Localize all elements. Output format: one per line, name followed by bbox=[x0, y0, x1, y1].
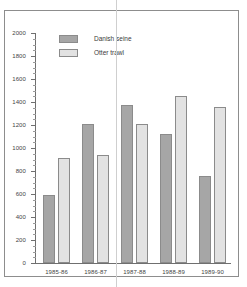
y-tick-label: 1600 bbox=[12, 76, 26, 82]
y-tick-minor bbox=[33, 131, 36, 132]
chart-figure: 0200400600800100012001400160018002000 19… bbox=[0, 0, 247, 287]
bar-danish-seine bbox=[43, 195, 55, 263]
y-tick-minor bbox=[33, 206, 36, 207]
bar-group bbox=[121, 33, 148, 263]
bar-danish-seine bbox=[82, 124, 94, 263]
bar-otter-trawl bbox=[136, 124, 148, 263]
y-tick-minor bbox=[33, 114, 36, 115]
bar-danish-seine bbox=[199, 176, 211, 263]
y-tick-minor bbox=[33, 177, 36, 178]
y-tick-label: 1800 bbox=[12, 53, 26, 59]
bar-group bbox=[199, 33, 226, 263]
y-tick-major: 1600 bbox=[31, 79, 36, 80]
y-tick-minor bbox=[33, 252, 36, 253]
bar-group bbox=[160, 33, 187, 263]
y-tick-major: 1200 bbox=[31, 125, 36, 126]
bar-otter-trawl bbox=[214, 107, 226, 263]
y-tick-minor bbox=[33, 223, 36, 224]
legend-label-danish-seine: Danish seine bbox=[94, 35, 132, 42]
scan-fold-line bbox=[116, 0, 117, 287]
y-tick-label: 600 bbox=[16, 191, 26, 197]
legend-item-danish-seine: Danish seine bbox=[59, 33, 159, 44]
y-tick-major: 800 bbox=[31, 171, 36, 172]
y-tick-major: 600 bbox=[31, 194, 36, 195]
y-tick-minor bbox=[33, 160, 36, 161]
y-tick-minor bbox=[33, 96, 36, 97]
y-tick-label: 800 bbox=[16, 168, 26, 174]
bar-otter-trawl bbox=[58, 158, 70, 263]
legend-swatch-danish-seine bbox=[59, 35, 78, 43]
y-tick-minor bbox=[33, 50, 36, 51]
y-tick-minor bbox=[33, 154, 36, 155]
y-tick-minor bbox=[33, 211, 36, 212]
y-tick-label: 1000 bbox=[12, 145, 26, 151]
chart-legend: Danish seine Otter trawl bbox=[59, 33, 159, 61]
x-tick-label: 1985-86 bbox=[45, 269, 68, 275]
x-tick-label: 1989-90 bbox=[201, 269, 224, 275]
y-tick-label: 1200 bbox=[12, 122, 26, 128]
y-tick-minor bbox=[33, 137, 36, 138]
y-tick-minor bbox=[33, 62, 36, 63]
y-tick-minor bbox=[33, 108, 36, 109]
y-tick-minor bbox=[33, 85, 36, 86]
y-tick-major: 0 bbox=[31, 263, 36, 264]
bar-otter-trawl bbox=[175, 96, 187, 263]
y-tick-minor bbox=[33, 119, 36, 120]
y-tick-label: 200 bbox=[16, 237, 26, 243]
y-tick-major: 2000 bbox=[31, 33, 36, 34]
y-tick-minor bbox=[33, 73, 36, 74]
y-tick-minor bbox=[33, 91, 36, 92]
y-tick-minor bbox=[33, 142, 36, 143]
y-tick-major: 1800 bbox=[31, 56, 36, 57]
bar-otter-trawl bbox=[97, 155, 109, 263]
y-tick-label: 400 bbox=[16, 214, 26, 220]
x-tick-label: 1987-88 bbox=[123, 269, 146, 275]
y-tick-minor bbox=[33, 165, 36, 166]
x-tick-label: 1988-89 bbox=[162, 269, 185, 275]
bar-danish-seine bbox=[121, 105, 133, 263]
y-tick-minor bbox=[33, 246, 36, 247]
y-tick-major: 200 bbox=[31, 240, 36, 241]
y-tick-minor bbox=[33, 39, 36, 40]
y-tick-major: 400 bbox=[31, 217, 36, 218]
x-tick-label: 1986-87 bbox=[84, 269, 107, 275]
y-tick-major: 1400 bbox=[31, 102, 36, 103]
y-tick-major: 1000 bbox=[31, 148, 36, 149]
y-tick-minor bbox=[33, 183, 36, 184]
y-tick-minor bbox=[33, 45, 36, 46]
figure-frame: 0200400600800100012001400160018002000 19… bbox=[4, 10, 239, 277]
plot-area: 0200400600800100012001400160018002000 19… bbox=[35, 33, 230, 263]
y-tick-minor bbox=[33, 68, 36, 69]
legend-item-otter-trawl: Otter trawl bbox=[59, 47, 159, 58]
bar-danish-seine bbox=[160, 134, 172, 263]
y-tick-minor bbox=[33, 200, 36, 201]
y-tick-minor bbox=[33, 234, 36, 235]
legend-swatch-otter-trawl bbox=[59, 49, 78, 57]
y-tick-minor bbox=[33, 257, 36, 258]
y-tick-label: 2000 bbox=[12, 30, 26, 36]
x-axis-line bbox=[35, 263, 231, 264]
bar-group bbox=[82, 33, 109, 263]
y-tick-label: 0 bbox=[23, 260, 26, 266]
y-tick-minor bbox=[33, 188, 36, 189]
y-tick-label: 1400 bbox=[12, 99, 26, 105]
legend-label-otter-trawl: Otter trawl bbox=[94, 49, 124, 56]
bar-group bbox=[43, 33, 70, 263]
y-tick-minor bbox=[33, 229, 36, 230]
